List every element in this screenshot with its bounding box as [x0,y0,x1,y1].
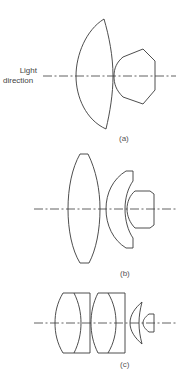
lens-a2 [114,49,155,104]
panel-c [34,293,176,353]
lens-a1 [76,19,113,129]
caption-c: (c) [120,360,129,369]
lens-b2 [106,171,133,248]
light-label-line1: Light [15,66,37,75]
lens-b1 [68,154,100,263]
panel-b [34,154,176,263]
light-label: Light [15,66,37,75]
lens-b3 [127,191,154,228]
caption-a: (a) [119,134,129,143]
lens-diagram [0,0,177,371]
light-label-line2: direction [3,76,33,85]
caption-b: (b) [120,269,130,278]
panel-a [43,19,176,129]
direction-label: direction [3,76,33,85]
